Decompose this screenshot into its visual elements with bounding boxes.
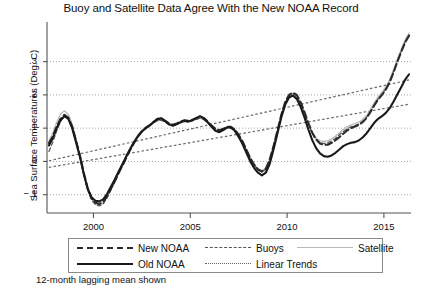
y-tick-label-1: 0 <box>15 154 37 165</box>
legend-swatch-old-noaa <box>77 259 133 269</box>
chart-footnote: 12-month lagging mean shown <box>36 274 166 285</box>
legend-item-linear-trends: Linear Trends <box>205 256 317 272</box>
trend-line-1 <box>49 104 409 167</box>
legend-swatch-buoys <box>205 243 251 253</box>
y-tick-label-2: .1 <box>15 121 37 132</box>
x-tick-label-2: 2010 <box>267 221 307 232</box>
legend-swatch-new-noaa <box>77 243 133 253</box>
chart-legend: New NOAA Buoys Satellite Old NOAA Linear… <box>68 238 383 273</box>
legend-label-linear-trends: Linear Trends <box>256 259 317 270</box>
y-tick-label-3: .2 <box>15 88 37 99</box>
legend-item-satellite: Satellite <box>297 240 394 256</box>
y-tick-label-0: −.1 <box>15 188 37 199</box>
legend-item-new-noaa: New NOAA <box>77 240 189 256</box>
legend-item-old-noaa: Old NOAA <box>77 256 185 272</box>
x-tick-label-3: 2015 <box>364 221 404 232</box>
chart-container: Buoy and Satellite Data Agree With the N… <box>0 0 422 292</box>
legend-label-satellite: Satellite <box>358 243 394 254</box>
legend-item-buoys: Buoys <box>205 240 284 256</box>
legend-label-new-noaa: New NOAA <box>138 243 189 254</box>
series-line-satellite <box>49 33 409 205</box>
legend-swatch-linear-trends <box>205 259 251 269</box>
legend-label-buoys: Buoys <box>256 243 284 254</box>
trend-line-0 <box>49 80 409 161</box>
series-line-old-noaa <box>49 74 409 201</box>
x-tick-label-1: 2005 <box>170 221 210 232</box>
x-tick-label-0: 2000 <box>73 221 113 232</box>
y-tick-label-4: .3 <box>15 55 37 66</box>
legend-swatch-satellite <box>297 243 353 253</box>
legend-label-old-noaa: Old NOAA <box>138 259 185 270</box>
